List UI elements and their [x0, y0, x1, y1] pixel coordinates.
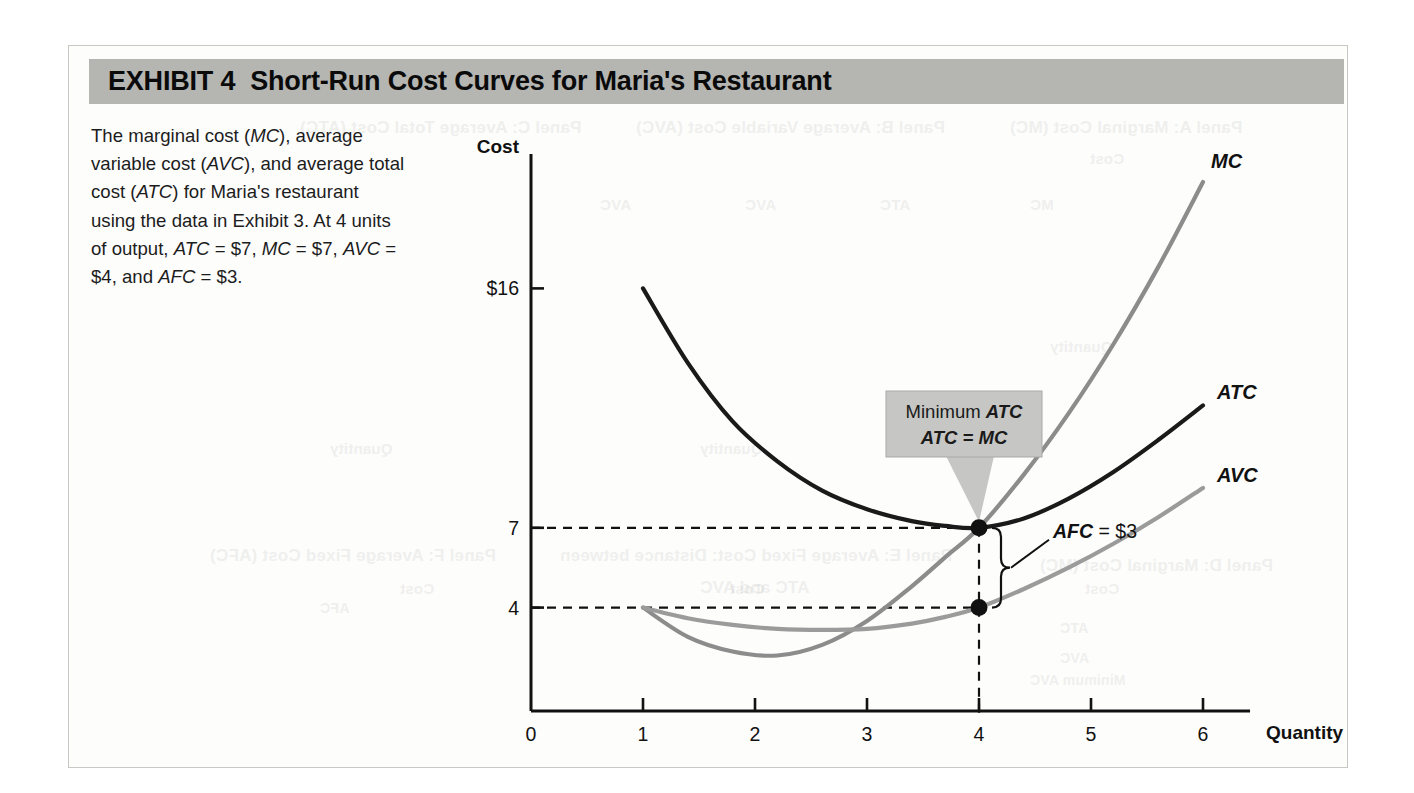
curve-label-avc: AVC: [1216, 464, 1258, 486]
callout-line-1: Minimum ATC: [906, 401, 1023, 422]
afc-term: AFC: [1052, 520, 1094, 542]
callout-segment: ATC = MC: [920, 427, 1008, 448]
afc-leader-line: [1011, 540, 1049, 568]
callout-line-2: ATC = MC: [920, 427, 1008, 448]
x-tick-label-6: 6: [1198, 723, 1209, 745]
curve-label-mc: MC: [1211, 150, 1243, 172]
callout-segment: ATC: [985, 401, 1023, 422]
y-axis-title: Cost: [477, 136, 520, 157]
x-tick-label-4: 4: [974, 723, 985, 745]
x-tick-label-3: 3: [862, 723, 873, 745]
y-axis-ticks: [531, 288, 544, 607]
y-tick-label-16: $16: [486, 277, 519, 299]
data-point-marker: [971, 599, 988, 616]
data-point-marker: [971, 519, 988, 536]
curve-label-atc: ATC: [1216, 381, 1257, 403]
callout-segment: Minimum: [906, 401, 986, 422]
x-tick-label-2: 2: [750, 723, 761, 745]
x-axis-tick-labels: 0123456: [526, 723, 1209, 745]
x-tick-label-1: 1: [638, 723, 649, 745]
afc-value: = $3: [1093, 520, 1137, 542]
cost-curves-chart: Cost Quantity 0123456 47$16 MCATCAVC AFC…: [69, 46, 1349, 769]
callout-pointer-tail: [946, 456, 994, 522]
minimum-atc-callout: Minimum ATC ATC = MC: [886, 391, 1042, 522]
exhibit-figure-frame: EXHIBIT 4 Short-Run Cost Curves for Mari…: [68, 45, 1348, 768]
x-tick-label-5: 5: [1086, 723, 1097, 745]
afc-annotation-label: AFC = $3: [1052, 520, 1137, 542]
x-tick-label-0: 0: [526, 723, 537, 745]
curve-end-labels: MCATCAVC: [1211, 150, 1258, 486]
guide-lines: [531, 528, 979, 714]
chart-svg: Cost Quantity 0123456 47$16 MCATCAVC AFC…: [69, 46, 1349, 769]
y-axis-tick-labels: 47$16: [486, 277, 519, 618]
x-axis-title: Quantity: [1266, 722, 1343, 743]
y-tick-label-7: 7: [508, 517, 519, 539]
y-tick-label-4: 4: [508, 597, 519, 619]
x-axis-ticks: [643, 698, 1203, 711]
